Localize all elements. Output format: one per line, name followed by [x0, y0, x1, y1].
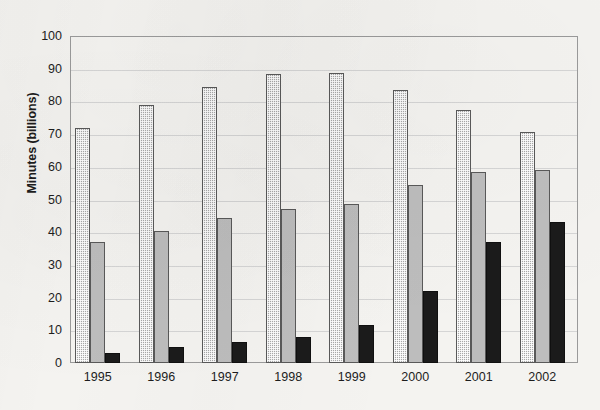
bar: [154, 231, 169, 363]
bar: [486, 242, 501, 363]
bar-group: [393, 36, 438, 363]
bar-chart: Minutes (billions) 010203040506070809010…: [0, 0, 600, 410]
x-axis-tick-labels: 19951996199719981999200020012002: [70, 370, 578, 394]
bars-layer: [70, 36, 578, 363]
bar: [217, 218, 232, 364]
y-axis-tick-label: 100: [41, 29, 62, 43]
y-axis-tick-label: 40: [48, 225, 62, 239]
bar: [105, 353, 120, 363]
bar: [456, 110, 471, 363]
bar-group: [266, 36, 311, 363]
bar: [423, 291, 438, 363]
y-axis-tick-label: 30: [48, 258, 62, 272]
x-axis-tick-label: 1997: [211, 370, 239, 384]
y-axis-tick-label: 80: [48, 94, 62, 108]
bar: [550, 222, 565, 363]
bar: [90, 242, 105, 363]
y-axis-tick-label: 90: [48, 62, 62, 76]
bar: [393, 90, 408, 363]
bar-group: [520, 36, 565, 363]
bar: [266, 74, 281, 363]
bar: [535, 170, 550, 363]
x-axis-tick-label: 2002: [528, 370, 556, 384]
x-axis-tick-label: 1999: [338, 370, 366, 384]
bar: [296, 337, 311, 363]
bar: [281, 209, 296, 363]
bar: [344, 204, 359, 363]
bar: [169, 347, 184, 363]
bar: [75, 128, 90, 363]
bar-group: [139, 36, 184, 363]
bar: [408, 185, 423, 363]
bar-group: [202, 36, 247, 363]
bar: [359, 325, 374, 363]
bar: [471, 172, 486, 363]
x-axis-tick-label: 1995: [84, 370, 112, 384]
bar-group: [456, 36, 501, 363]
bar-group: [75, 36, 120, 363]
y-axis-tick-labels: 0102030405060708090100: [0, 0, 70, 410]
x-axis-tick-label: 2000: [401, 370, 429, 384]
x-axis-tick-label: 1996: [147, 370, 175, 384]
y-axis-tick-label: 60: [48, 160, 62, 174]
bar: [202, 87, 217, 363]
x-axis-tick-label: 1998: [274, 370, 302, 384]
bar-group: [329, 36, 374, 363]
bar: [329, 73, 344, 363]
y-axis-tick-label: 50: [48, 193, 62, 207]
y-axis-tick-label: 10: [48, 323, 62, 337]
x-axis-tick-label: 2001: [465, 370, 493, 384]
y-axis-tick-label: 70: [48, 127, 62, 141]
y-axis-tick-label: 0: [55, 356, 62, 370]
bar: [139, 105, 154, 363]
y-axis-tick-label: 20: [48, 291, 62, 305]
bar: [520, 132, 535, 363]
bar: [232, 342, 247, 363]
